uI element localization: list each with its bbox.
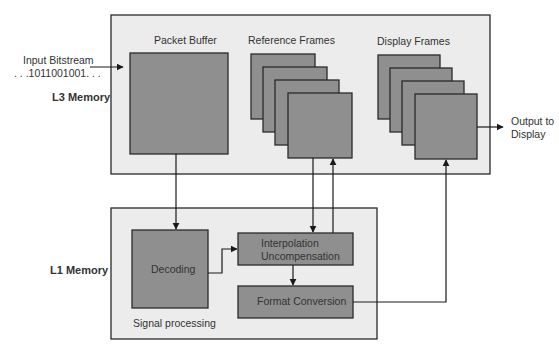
output-label-line2: Display [511, 128, 546, 140]
packet-buffer-block [130, 53, 228, 154]
input-label-line2: . . .1011001001. . . [14, 67, 101, 79]
signal-processing-label: Signal processing [133, 317, 216, 329]
interpolation-label-line1: Interpolation [261, 237, 319, 249]
reference-frames-title: Reference Frames [248, 34, 335, 46]
decoding-label: Decoding [151, 263, 196, 275]
format-conversion-label: Format Conversion [257, 295, 346, 307]
l1-memory-label: L1 Memory [50, 264, 109, 276]
interpolation-label-line2: Uncompensation [261, 250, 340, 262]
memory-diagram: Input Bitstream . . .1011001001. . . L3 … [0, 0, 559, 357]
packet-buffer-title: Packet Buffer [154, 34, 217, 46]
input-label-line1: Input Bitstream [23, 54, 94, 66]
display-frames-title: Display Frames [377, 35, 450, 47]
output-label-line1: Output to [511, 115, 554, 127]
l3-memory-label: L3 Memory [52, 91, 111, 103]
